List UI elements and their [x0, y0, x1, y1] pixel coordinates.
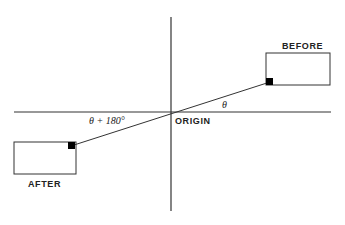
before-marker	[266, 78, 273, 85]
before-box	[266, 53, 330, 85]
rotation-line	[74, 82, 270, 145]
origin-label: ORIGIN	[175, 116, 211, 126]
after-box	[14, 142, 76, 174]
rotation-diagram: BEFORE AFTER ORIGIN θ θ + 180°	[0, 0, 345, 225]
theta-label: θ	[222, 99, 227, 110]
before-label: BEFORE	[282, 41, 323, 51]
after-marker	[68, 142, 75, 149]
theta-plus-180-label: θ + 180°	[89, 115, 125, 126]
after-label: AFTER	[28, 179, 61, 189]
